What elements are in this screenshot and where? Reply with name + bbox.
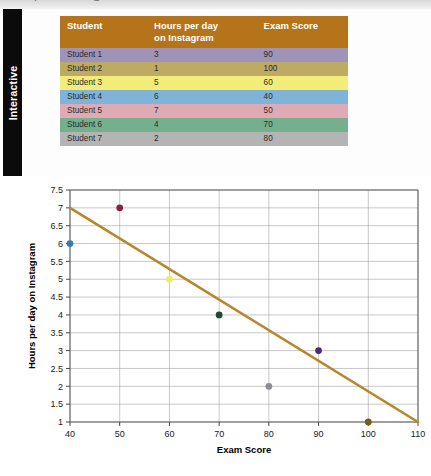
x-tick-label: 50: [115, 429, 125, 439]
table-row: Student 4640: [60, 90, 348, 104]
cell-hours: 5: [147, 76, 256, 90]
cell-student: Student 1: [60, 48, 147, 62]
column-header-hours: Hours per day on Instagram: [147, 16, 256, 48]
table-row: Student 1390: [60, 48, 348, 62]
table-row: Student 5750: [60, 104, 348, 118]
y-tick-label: 6.5: [50, 221, 63, 231]
cell-hours: 2: [147, 132, 256, 146]
y-tick-label: 3: [58, 346, 63, 356]
chart-svg: 11.522.533.544.555.566.577.5405060708090…: [22, 176, 431, 476]
x-tick-label: 110: [411, 429, 425, 439]
y-tick-label: 2: [58, 382, 63, 392]
y-tick-label: 1: [58, 417, 63, 427]
x-tick-label: 90: [314, 429, 324, 439]
cell-hours: 6: [147, 90, 256, 104]
x-tick-label: 80: [264, 429, 274, 439]
cell-student: Student 4: [60, 90, 147, 104]
table-body: Student 1390Student 21100Student 3560Stu…: [60, 48, 348, 146]
column-header-exam-score: Exam Score: [257, 16, 348, 48]
table-header-row: Student Hours per day on Instagram Exam …: [60, 16, 348, 48]
y-tick-label: 7: [58, 203, 63, 213]
cell-student: Student 2: [60, 62, 147, 76]
cell-hours: 1: [147, 62, 256, 76]
page-top-strip: I G: [0, 0, 431, 9]
interactive-rail-label: Interactive: [7, 65, 19, 120]
x-tick-label: 40: [65, 429, 75, 439]
y-tick-label: 5: [58, 274, 63, 284]
cell-score: 90: [257, 48, 348, 62]
table-row: Student 3560: [60, 76, 348, 90]
cell-score: 70: [257, 118, 348, 132]
cut-off-heading-text: I G: [34, 0, 127, 3]
table-row: Student 6470: [60, 118, 348, 132]
chart-x-axis-title: Exam Score: [217, 444, 271, 455]
cell-hours: 4: [147, 118, 256, 132]
column-header-student: Student: [60, 16, 147, 48]
y-tick-label: 6: [58, 239, 63, 249]
cell-score: 60: [257, 76, 348, 90]
y-tick-label: 1.5: [50, 399, 63, 409]
table-row: Student 21100: [60, 62, 348, 76]
cell-student: Student 6: [60, 118, 147, 132]
interactive-rail[interactable]: Interactive: [3, 9, 22, 176]
y-tick-label: 5.5: [50, 257, 63, 267]
cell-score: 50: [257, 104, 348, 118]
cell-hours: 7: [147, 104, 256, 118]
content-panel: Student Hours per day on Instagram Exam …: [22, 9, 431, 176]
chart-gridlines: [70, 190, 418, 422]
cell-hours: 3: [147, 48, 256, 62]
y-tick-label: 4: [58, 310, 63, 320]
data-point: [216, 312, 223, 319]
table-row: Student 7280: [60, 132, 348, 146]
data-point: [365, 419, 372, 426]
cell-student: Student 3: [60, 76, 147, 90]
scatter-chart: 11.522.533.544.555.566.577.5405060708090…: [22, 176, 431, 476]
x-tick-label: 60: [164, 429, 174, 439]
data-point: [116, 204, 123, 211]
column-header-hours-line1: Hours per day: [154, 20, 218, 31]
cell-score: 100: [257, 62, 348, 76]
chart-y-axis-title: Hours per day on Instagram: [26, 243, 37, 369]
x-tick-label: 70: [214, 429, 224, 439]
y-tick-label: 2.5: [50, 364, 63, 374]
table-head: Student Hours per day on Instagram Exam …: [60, 16, 348, 48]
cell-student: Student 5: [60, 104, 147, 118]
y-tick-label: 7.5: [50, 185, 63, 195]
y-tick-label: 3.5: [50, 328, 63, 338]
data-point: [166, 276, 173, 283]
cell-score: 40: [257, 90, 348, 104]
cell-student: Student 7: [60, 132, 147, 146]
y-tick-label: 4.5: [50, 292, 63, 302]
column-header-hours-line2: on Instagram: [154, 32, 214, 43]
data-point: [67, 240, 74, 247]
data-point: [265, 383, 272, 390]
cell-score: 80: [257, 132, 348, 146]
x-tick-label: 100: [361, 429, 376, 439]
student-data-table: Student Hours per day on Instagram Exam …: [60, 16, 348, 146]
data-point: [315, 347, 322, 354]
